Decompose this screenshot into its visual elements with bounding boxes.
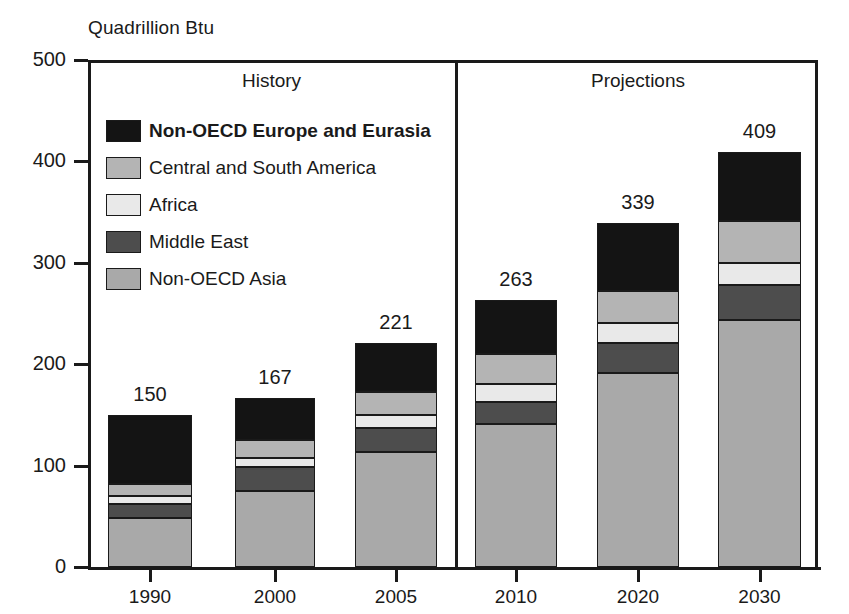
legend-item-middle-east[interactable]: Middle East: [106, 223, 431, 260]
bar-segment-1990-africa[interactable]: [108, 496, 192, 504]
bar-segment-2005-non-oecd-asia[interactable]: [355, 452, 437, 567]
legend-item-africa[interactable]: Africa: [106, 186, 431, 223]
y-tick-label-500: 500: [33, 49, 66, 69]
bar-segment-2030-africa[interactable]: [718, 263, 801, 285]
x-tick-2020: [637, 570, 640, 582]
bar-segment-2010-middle-east[interactable]: [475, 402, 557, 424]
bar-segment-2005-middle-east[interactable]: [355, 428, 437, 452]
bar-segment-2020-central-and-south-america[interactable]: [597, 291, 679, 322]
bar-segment-2010-central-and-south-america[interactable]: [475, 354, 557, 384]
legend-item-label: Central and South America: [149, 157, 376, 179]
legend-item-central-and-south-america[interactable]: Central and South America: [106, 149, 431, 186]
bar-segment-2030-central-and-south-america[interactable]: [718, 221, 801, 263]
bar-segment-2010-non-oecd-asia[interactable]: [475, 424, 557, 567]
stacked-bar-chart: Quadrillion Btu History Projections 0100…: [0, 0, 849, 614]
y-tick-200: [74, 363, 88, 366]
x-axis-line: [88, 567, 821, 570]
x-tick-label-2010: 2010: [471, 586, 561, 608]
x-tick-label-2005: 2005: [351, 586, 441, 608]
y-tick-label-200: 200: [33, 353, 66, 373]
y-axis-line: [88, 60, 91, 570]
x-tick-label-2000: 2000: [230, 586, 320, 608]
legend-item-label: Africa: [149, 194, 198, 216]
bar-2030[interactable]: [718, 152, 801, 567]
legend-swatch-icon: [106, 194, 141, 216]
bar-2000[interactable]: [235, 398, 315, 567]
bar-total-label-1990: 150: [100, 383, 200, 406]
bar-segment-2000-africa[interactable]: [235, 458, 315, 466]
bar-segment-2030-non-oecd-asia[interactable]: [718, 320, 801, 567]
x-tick-2005: [395, 570, 398, 582]
bar-segment-2010-non-oecd-europe-and-eurasia[interactable]: [475, 300, 557, 354]
y-tick-400: [74, 160, 88, 163]
bar-segment-2000-central-and-south-america[interactable]: [235, 440, 315, 458]
x-tick-label-2020: 2020: [593, 586, 683, 608]
section-label-projections: Projections: [458, 70, 818, 92]
legend-swatch-icon: [106, 157, 141, 179]
bar-segment-2020-africa[interactable]: [597, 323, 679, 343]
bar-segment-1990-non-oecd-europe-and-eurasia[interactable]: [108, 415, 192, 484]
legend-item-label: Non-OECD Asia: [149, 268, 286, 290]
x-tick-2000: [274, 570, 277, 582]
legend-item-label: Non-OECD Europe and Eurasia: [149, 120, 431, 142]
bar-segment-2000-non-oecd-europe-and-eurasia[interactable]: [235, 398, 315, 441]
y-tick-100: [74, 465, 88, 468]
bar-segment-2005-africa[interactable]: [355, 415, 437, 428]
legend-swatch-icon: [106, 120, 141, 142]
bar-segment-2020-non-oecd-asia[interactable]: [597, 373, 679, 567]
bar-segment-2020-middle-east[interactable]: [597, 343, 679, 373]
bar-segment-2000-middle-east[interactable]: [235, 467, 315, 491]
bar-segment-2005-central-and-south-america[interactable]: [355, 392, 437, 415]
x-tick-2030: [759, 570, 762, 582]
bar-segment-2030-middle-east[interactable]: [718, 285, 801, 319]
legend-swatch-icon: [106, 268, 141, 290]
legend-item-non-oecd-europe-and-eurasia[interactable]: Non-OECD Europe and Eurasia: [106, 112, 431, 149]
legend-item-label: Middle East: [149, 231, 248, 253]
section-label-history: History: [88, 70, 455, 92]
bar-segment-2005-non-oecd-europe-and-eurasia[interactable]: [355, 343, 437, 392]
history-projections-divider: [455, 60, 458, 567]
bar-total-label-2005: 221: [346, 311, 446, 334]
y-tick-label-400: 400: [33, 150, 66, 170]
y-tick-500: [74, 59, 88, 62]
y-tick-label-0: 0: [55, 556, 66, 576]
bar-segment-2000-non-oecd-asia[interactable]: [235, 491, 315, 567]
bar-2010[interactable]: [475, 300, 557, 567]
x-tick-2010: [515, 570, 518, 582]
y-tick-0: [74, 566, 88, 569]
bar-total-label-2010: 263: [466, 268, 566, 291]
bar-segment-1990-non-oecd-asia[interactable]: [108, 518, 192, 567]
bar-segment-1990-middle-east[interactable]: [108, 504, 192, 518]
y-tick-label-100: 100: [33, 455, 66, 475]
legend-item-non-oecd-asia[interactable]: Non-OECD Asia: [106, 260, 431, 297]
bar-segment-2020-non-oecd-europe-and-eurasia[interactable]: [597, 223, 679, 291]
bar-total-label-2000: 167: [225, 366, 325, 389]
bar-2020[interactable]: [597, 223, 679, 567]
bar-2005[interactable]: [355, 343, 437, 567]
x-tick-label-2030: 2030: [715, 586, 805, 608]
x-tick-1990: [149, 570, 152, 582]
bar-segment-1990-central-and-south-america[interactable]: [108, 484, 192, 496]
legend-swatch-icon: [106, 231, 141, 253]
y-axis-title: Quadrillion Btu: [88, 17, 214, 39]
bar-segment-2030-non-oecd-europe-and-eurasia[interactable]: [718, 152, 801, 221]
bar-total-label-2030: 409: [710, 120, 810, 143]
y-tick-label-300: 300: [33, 252, 66, 272]
bar-segment-2010-africa[interactable]: [475, 384, 557, 401]
x-tick-label-1990: 1990: [105, 586, 195, 608]
legend: Non-OECD Europe and EurasiaCentral and S…: [106, 112, 431, 297]
bar-total-label-2020: 339: [588, 191, 688, 214]
y-tick-300: [74, 262, 88, 265]
bar-1990[interactable]: [108, 415, 192, 567]
